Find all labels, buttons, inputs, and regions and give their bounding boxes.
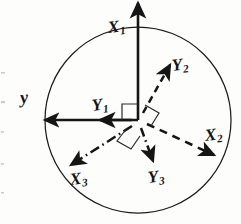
right-angle-y3-x3 <box>117 128 140 149</box>
vector-diagram-figure: X1 Y2 X2 Y3 X3 Y1 y <box>0 0 241 224</box>
label-y3-base: Y <box>147 167 160 187</box>
label-x2-base: X <box>204 125 218 145</box>
label-y3: Y3 <box>147 167 166 188</box>
right-angle-x1-y1 <box>122 104 138 120</box>
label-x1: X1 <box>107 17 126 38</box>
label-y1-base: Y <box>91 95 104 115</box>
vector-x3 <box>71 126 132 165</box>
label-y1: Y1 <box>91 95 110 116</box>
label-y2: Y2 <box>171 55 190 76</box>
vector-y3 <box>141 128 153 161</box>
scan-edge-artifacts <box>1 72 5 193</box>
label-x3: X3 <box>69 169 88 190</box>
label-y2-base: Y <box>171 55 184 75</box>
label-x2: X2 <box>204 125 223 146</box>
label-x3-base: X <box>69 169 83 189</box>
label-x1-base: X <box>107 17 121 37</box>
